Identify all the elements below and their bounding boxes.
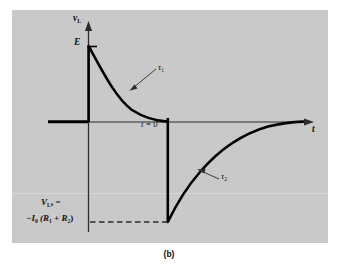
- figure-container: vL E t t = 0 τ1 τ2 VL0 = −I0 (R1 + R2) (…: [0, 0, 338, 270]
- tau1-leader-line: [130, 69, 156, 91]
- y-axis-label: vL: [73, 14, 81, 25]
- waveform-plot: [0, 0, 338, 270]
- peak-value-label: E: [74, 38, 80, 48]
- vl0-label-line1: VL0 =: [41, 198, 61, 208]
- tau1-label: τ1: [158, 63, 164, 73]
- figure-caption: (b): [0, 249, 338, 259]
- vl0-label-line2: −I0 (R1 + R2): [26, 214, 73, 224]
- tau2-label: τ2: [221, 172, 227, 182]
- origin-marker-label: t = 0: [141, 120, 158, 129]
- curve-decay-tau1: [89, 46, 168, 122]
- tau2-leader-line: [197, 169, 219, 179]
- x-axis-label: t: [312, 125, 315, 135]
- curve-rise-tau2: [168, 122, 303, 222]
